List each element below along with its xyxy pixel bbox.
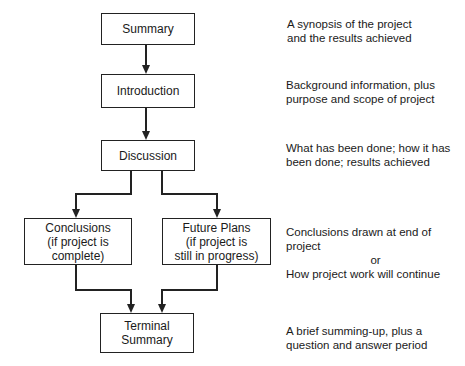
box-label: Terminal [121,319,172,333]
description-line: Background information, plus [286,78,435,92]
description-line: and the results achieved [287,31,412,45]
description-line: or [286,253,465,267]
discussion-box: Discussion [101,140,195,171]
description-line: question and answer period [286,338,427,352]
box-label: (if project is [174,235,258,249]
box-label: Introduction [117,84,180,98]
summary-description: A synopsis of the project and the result… [287,17,412,45]
box-label: Summary [122,22,173,36]
discussion-description: What has been done; how it has been done… [286,141,450,169]
future-plans-box: Future Plans (if project is still in pro… [162,218,271,265]
description-line: purpose and scope of project [286,92,435,106]
box-label: complete) [45,249,110,263]
introduction-box: Introduction [101,74,195,108]
introduction-description: Background information, plus purpose and… [286,78,435,106]
box-label: Discussion [119,149,177,163]
conclusions-box: Conclusions (if project is complete) [24,218,132,265]
terminal-summary-description: A brief summing-up, plus a question and … [286,324,427,352]
box-label: (if project is [45,235,110,249]
box-label: still in progress) [174,249,258,263]
description-line: been done; results achieved [286,155,450,169]
description-line: What has been done; how it has [286,141,450,155]
description-line: Conclusions drawn at end of project [286,225,465,253]
box-label: Conclusions [45,221,110,235]
conclusions-future-plans-description: Conclusions drawn at end of project or H… [286,225,465,281]
connector-arrows [0,0,465,366]
summary-box: Summary [101,13,195,45]
box-label: Future Plans [174,221,258,235]
description-line: A synopsis of the project [287,17,412,31]
description-line: How project work will continue [286,267,465,281]
description-line: A brief summing-up, plus a [286,324,427,338]
terminal-summary-box: Terminal Summary [100,313,194,353]
box-label: Summary [121,333,172,347]
